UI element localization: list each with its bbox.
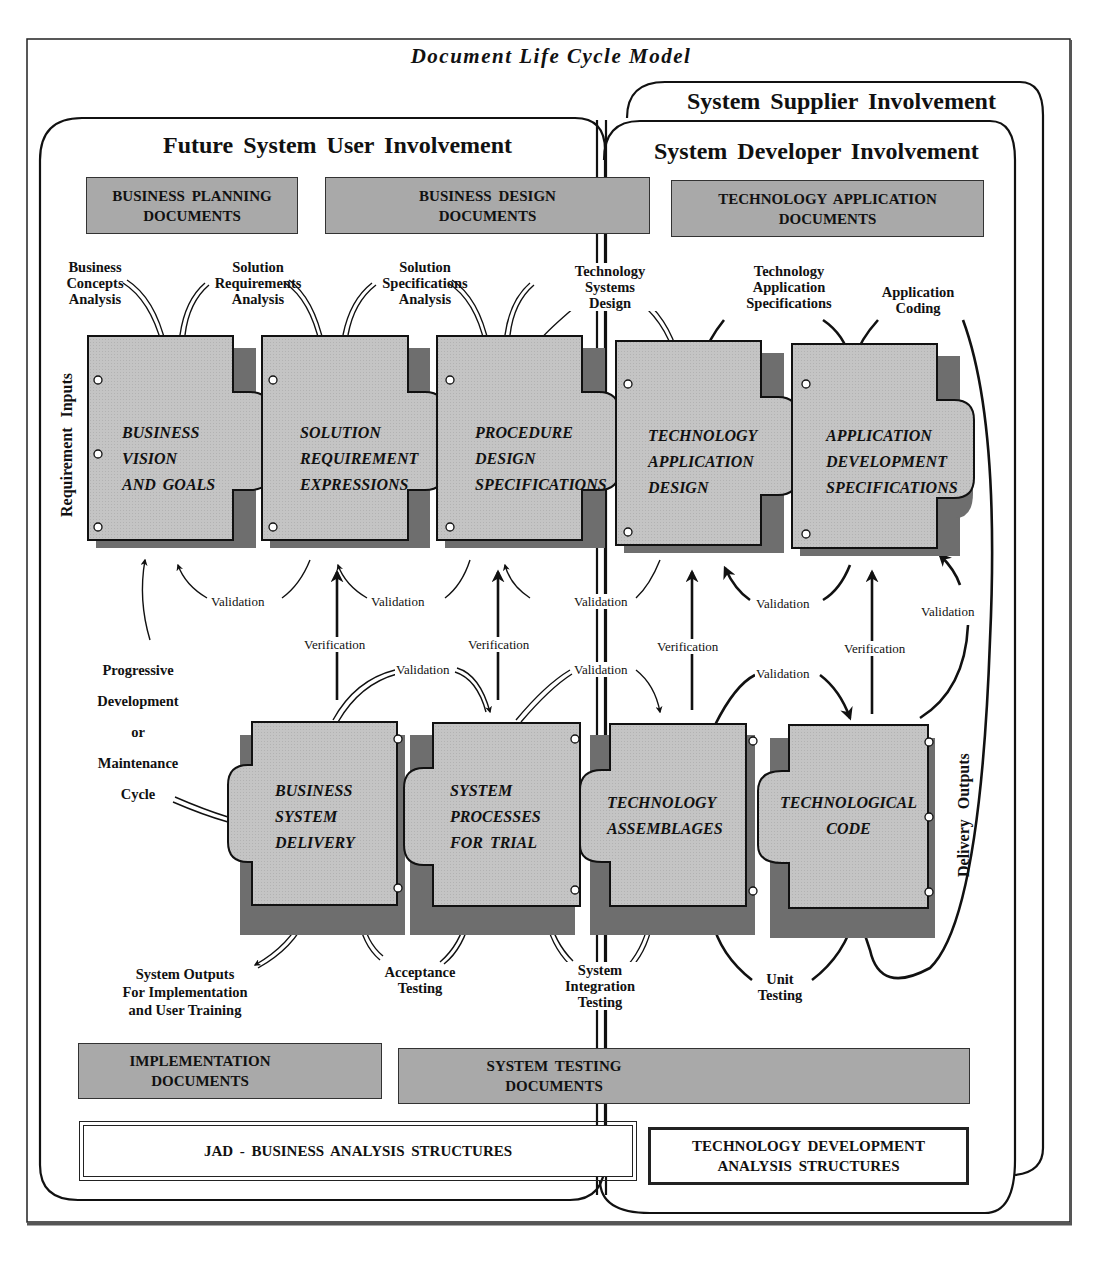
activity-solution-requirements-analysis: SolutionRequirementsAnalysis	[198, 259, 318, 307]
piece-line: AND GOALS	[122, 472, 215, 498]
activity-line: Testing	[745, 987, 815, 1003]
activity-unit-testing: UnitTesting	[745, 971, 815, 1003]
piece-line: SYSTEM	[450, 778, 541, 804]
cycle-line: Cycle	[78, 779, 198, 810]
activity-line: Acceptance	[370, 964, 470, 980]
diagram-title: Document Life Cycle Model	[0, 44, 1102, 69]
technology-application-documents: TECHNOLOGY APPLICATIONDOCUMENTS	[671, 180, 984, 237]
activity-solution-specifications-analysis: SolutionSpecificationsAnalysis	[365, 259, 485, 307]
validation-label: Validation	[573, 594, 628, 609]
activity-system-integration-testing: SystemIntegrationTesting	[560, 962, 640, 1010]
activity-line: and User Training	[100, 1001, 270, 1019]
system-testing-documents: SYSTEM TESTINGDOCUMENTS	[398, 1048, 970, 1104]
activity-acceptance-testing: AcceptanceTesting	[370, 964, 470, 996]
piece-business-system-delivery: BUSINESSSYSTEMDELIVERY	[275, 778, 355, 856]
business-design-documents: BUSINESS DESIGNDOCUMENTS	[325, 177, 650, 234]
validation-label: Validation	[210, 594, 265, 609]
activity-line: Unit	[745, 971, 815, 987]
doc-line: DOCUMENTS	[129, 1071, 270, 1091]
activity-line: Application	[734, 279, 844, 295]
activity-line: Testing	[560, 994, 640, 1010]
requirement-inputs-label: Requirement Inputs	[58, 373, 76, 517]
verification-label: Verification	[303, 637, 366, 652]
doc-line: DOCUMENTS	[718, 209, 936, 229]
piece-line: REQUIREMENT	[300, 446, 418, 472]
activity-application-coding: ApplicationCoding	[868, 284, 968, 316]
cycle-line: Progressive	[78, 655, 198, 686]
piece-line: DESIGN	[475, 446, 607, 472]
activity-line: Business	[55, 259, 135, 275]
delivery-outputs-label: Delivery Outputs	[955, 753, 973, 877]
piece-line: SOLUTION	[300, 420, 418, 446]
document-life-cycle-diagram: Document Life Cycle Model Future System …	[0, 0, 1102, 1263]
activity-line: System Outputs	[100, 965, 270, 983]
doc-line: IMPLEMENTATION	[129, 1051, 270, 1071]
piece-technology-application-design: TECHNOLOGYAPPLICATIONDESIGN	[648, 423, 757, 501]
doc-line: DOCUMENTS	[112, 206, 271, 226]
piece-line: CODE	[780, 816, 917, 842]
developer-involvement-title: System Developer Involvement	[654, 138, 979, 165]
piece-line: DESIGN	[648, 475, 757, 501]
activity-line: Specifications	[365, 275, 485, 291]
jad-label: JAD - BUSINESS ANALYSIS STRUCTURES	[204, 1141, 512, 1161]
piece-procedure-design-specifications: PROCEDUREDESIGNSPECIFICATIONS	[475, 420, 607, 498]
piece-line: PROCEDURE	[475, 420, 607, 446]
piece-line: ASSEMBLAGES	[607, 816, 723, 842]
business-planning-documents: BUSINESS PLANNINGDOCUMENTS	[86, 177, 298, 234]
activity-line: Solution	[198, 259, 318, 275]
piece-technological-code: TECHNOLOGICALCODE	[780, 790, 917, 842]
piece-line: DELIVERY	[275, 830, 355, 856]
supplier-involvement-title: System Supplier Involvement	[687, 88, 996, 115]
piece-system-processes-for-trial: SYSTEMPROCESSESFOR TRIAL	[450, 778, 541, 856]
piece-line: PROCESSES	[450, 804, 541, 830]
doc-line: BUSINESS DESIGN	[419, 186, 556, 206]
activity-technology-application-specifications: TechnologyApplicationSpecifications	[734, 263, 844, 311]
activity-line: Analysis	[365, 291, 485, 307]
piece-line: APPLICATION	[648, 449, 757, 475]
doc-line: DOCUMENTS	[419, 206, 556, 226]
activity-line: Analysis	[198, 291, 318, 307]
activity-business-concepts-analysis: BusinessConceptsAnalysis	[55, 259, 135, 307]
piece-line: VISION	[122, 446, 215, 472]
validation-label: Validation	[573, 662, 628, 677]
activity-technology-systems-design: TechnologySystemsDesign	[560, 263, 660, 311]
struct-line: ANALYSIS STRUCTURES	[692, 1156, 925, 1176]
cycle-line: or	[78, 717, 198, 748]
activity-line: Technology	[734, 263, 844, 279]
piece-line: SYSTEM	[275, 804, 355, 830]
validation-label: Validation	[370, 594, 425, 609]
struct-line: TECHNOLOGY DEVELOPMENT	[692, 1136, 925, 1156]
validation-label: Validation	[755, 596, 810, 611]
doc-line: SYSTEM TESTING	[487, 1056, 622, 1076]
piece-line: TECHNOLOGY	[648, 423, 757, 449]
doc-line: TECHNOLOGY APPLICATION	[718, 189, 936, 209]
activity-line: Coding	[868, 300, 968, 316]
piece-line: TECHNOLOGICAL	[780, 790, 917, 816]
activity-line: System	[560, 962, 640, 978]
activity-line: Requirements	[198, 275, 318, 291]
activity-line: Systems	[560, 279, 660, 295]
technology-development-analysis-structures: TECHNOLOGY DEVELOPMENTANALYSIS STRUCTURE…	[648, 1127, 969, 1185]
activity-line: Application	[868, 284, 968, 300]
user-involvement-title: Future System User Involvement	[163, 132, 512, 159]
validation-label: Validation	[755, 666, 810, 681]
activity-line: Analysis	[55, 291, 135, 307]
piece-application-development-specifications: APPLICATIONDEVELOPMENTSPECIFICATIONS	[826, 423, 958, 501]
activity-line: For Implementation	[100, 983, 270, 1001]
cycle-line: Maintenance	[78, 748, 198, 779]
cycle-line: Development	[78, 686, 198, 717]
verification-label: Verification	[656, 639, 719, 654]
piece-line: BUSINESS	[275, 778, 355, 804]
doc-line: BUSINESS PLANNING	[112, 186, 271, 206]
jad-business-analysis-structures: JAD - BUSINESS ANALYSIS STRUCTURES	[83, 1125, 633, 1177]
progressive-cycle-label: Progressive Development or Maintenance C…	[78, 655, 198, 810]
activity-line: Technology	[560, 263, 660, 279]
piece-business-vision-and-goals: BUSINESSVISIONAND GOALS	[122, 420, 215, 498]
piece-line: APPLICATION	[826, 423, 958, 449]
piece-line: EXPRESSIONS	[300, 472, 418, 498]
activity-line: Design	[560, 295, 660, 311]
piece-line: SPECIFICATIONS	[475, 472, 607, 498]
piece-technology-assemblages: TECHNOLOGYASSEMBLAGES	[607, 790, 723, 842]
piece-line: DEVELOPMENT	[826, 449, 958, 475]
piece-line: BUSINESS	[122, 420, 215, 446]
